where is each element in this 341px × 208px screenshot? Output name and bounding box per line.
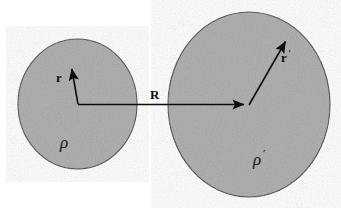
density-rho-prime-label: ρ	[252, 150, 261, 169]
diagram-canvas: r R r ′ ρ ρ ′	[0, 0, 341, 208]
physics-diagram: r R r ′ ρ ρ ′	[0, 0, 341, 208]
vector-r-prime-tick: ′	[289, 47, 291, 59]
vector-R-label: R	[150, 87, 160, 102]
vector-r-prime-label: r	[281, 50, 287, 65]
vector-r-label: r	[56, 70, 62, 85]
density-rho-prime-tick: ′	[263, 147, 265, 159]
density-rho-label: ρ	[59, 133, 68, 152]
